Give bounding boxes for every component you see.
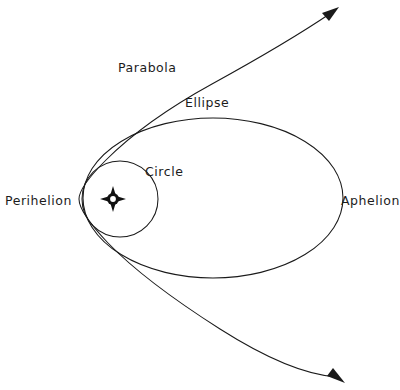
label-aphelion: Aphelion — [341, 193, 400, 208]
arrowhead-icon-upper — [322, 7, 339, 21]
label-ellipse: Ellipse — [185, 95, 229, 110]
label-parabola: Parabola — [118, 60, 177, 75]
orbit-diagram: Parabola Ellipse Circle Perihelion Aphel… — [0, 0, 400, 390]
orbit-diagram-canvas: Parabola Ellipse Circle Perihelion Aphel… — [0, 0, 400, 390]
label-circle: Circle — [145, 164, 183, 179]
sun-center-hole — [110, 196, 116, 202]
sun-icon — [100, 186, 126, 212]
label-perihelion: Perihelion — [5, 193, 72, 208]
arrowhead-icon-lower — [327, 368, 345, 383]
